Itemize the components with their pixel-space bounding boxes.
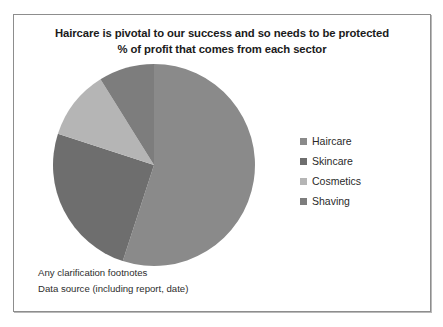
pie-chart[interactable] xyxy=(52,63,256,267)
chart-legend: HaircareSkincareCosmeticsShaving xyxy=(300,131,420,211)
legend-item-label: Cosmetics xyxy=(312,175,361,187)
legend-item-shaving[interactable]: Shaving xyxy=(300,191,420,211)
pie-slice-group xyxy=(53,64,255,266)
legend-swatch-icon xyxy=(300,178,307,185)
legend-item-label: Haircare xyxy=(312,135,352,147)
footnote-data-source: Data source (including report, date) xyxy=(38,281,188,297)
legend-item-label: Shaving xyxy=(312,195,350,207)
legend-item-skincare[interactable]: Skincare xyxy=(300,151,420,171)
legend-swatch-icon xyxy=(300,138,307,145)
legend-swatch-icon xyxy=(300,198,307,205)
footnotes-block: Any clarification footnotes Data source … xyxy=(38,265,188,297)
footnote-clarification: Any clarification footnotes xyxy=(38,265,188,281)
legend-item-cosmetics[interactable]: Cosmetics xyxy=(300,171,420,191)
legend-item-label: Skincare xyxy=(312,155,353,167)
legend-item-haircare[interactable]: Haircare xyxy=(300,131,420,151)
legend-swatch-icon xyxy=(300,158,307,165)
slide-frame: Haircare is pivotal to our success and s… xyxy=(13,14,431,312)
